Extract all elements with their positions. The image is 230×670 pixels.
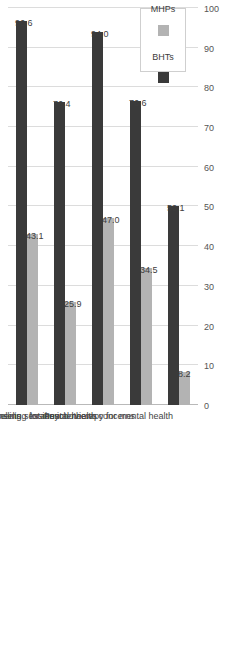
tick-label: 50 [204, 203, 214, 213]
tick-label: 0 [204, 401, 209, 411]
bar-chart-figure: 96.643.176.425.994.047.076.634.550.18.2 … [0, 0, 230, 670]
bar-row: 25.9 [65, 8, 76, 405]
legend-swatch-mhps [158, 25, 169, 36]
bar-bhts[interactable] [54, 102, 65, 405]
tick-label: 90 [204, 44, 214, 54]
bar-value-label: 34.5 [140, 265, 158, 275]
bar-value-label: 8.2 [178, 369, 191, 379]
bar-bhts[interactable] [130, 101, 141, 405]
tick-label: 40 [204, 242, 214, 252]
legend-item-mhps: MHPs [158, 0, 169, 36]
chart-legend: BHTs MHPs [140, 8, 186, 72]
bar-value-label: 47.0 [102, 215, 120, 225]
bar-mhps[interactable] [65, 302, 76, 405]
bar-group: 96.643.1 [8, 8, 46, 405]
legend-swatch-bhts [158, 72, 169, 83]
legend-item-bhts: BHTs [158, 46, 169, 83]
bar-value-label: 43.1 [26, 231, 44, 241]
bar-group: 94.047.0 [84, 8, 122, 405]
bar-mhps[interactable] [141, 268, 152, 405]
tick-label: 60 [204, 163, 214, 173]
bar-value-label: 25.9 [64, 299, 82, 309]
bar-mhps[interactable] [103, 218, 114, 405]
bar-row: 47.0 [103, 8, 114, 405]
bar-group: 76.425.9 [46, 8, 84, 405]
bar-row: 76.4 [54, 8, 65, 405]
category-label: Psychotherapy for mental health [0, 411, 173, 421]
tick-label: 30 [204, 282, 214, 292]
tick-label: 100 [204, 4, 219, 14]
bar-row: 96.6 [16, 8, 27, 405]
bar-row: 94.0 [92, 8, 103, 405]
bar-row: 43.1 [27, 8, 38, 405]
tick-label: 80 [204, 83, 214, 93]
legend-label-bhts: BHTs [152, 52, 174, 62]
bar-mhps[interactable] [27, 234, 38, 405]
tick-label: 20 [204, 322, 214, 332]
legend-label-mhps: MHPs [151, 4, 176, 14]
tick-label: 10 [204, 361, 214, 371]
bar-bhts[interactable] [16, 22, 27, 406]
tick-label: 70 [204, 123, 214, 133]
